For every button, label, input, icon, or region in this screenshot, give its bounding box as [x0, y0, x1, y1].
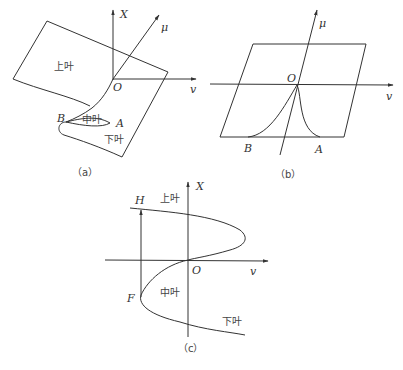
caption-c: （c）	[178, 343, 204, 354]
mu-axis-b	[280, 10, 317, 155]
point-f-label-c: F	[126, 292, 135, 305]
region-upper-label-c: 上叶	[160, 193, 180, 204]
origin-label-a: O	[113, 81, 122, 94]
cusp-catastrophe-figure: 上叶 中叶 下叶 B A O v X μ （a） B A O v μ （b）	[0, 0, 403, 370]
v-axis-label-a: v	[190, 83, 197, 96]
mu-axis-label-a: μ	[161, 21, 168, 34]
cusp-curve-left-b	[248, 85, 297, 137]
v-axis-label-c: v	[250, 265, 257, 278]
origin-label-c: O	[192, 264, 201, 277]
origin-label-b: O	[287, 72, 296, 85]
point-a-label-b: A	[314, 143, 323, 156]
v-axis-label-b: v	[386, 90, 393, 103]
surface-outline-a	[13, 21, 168, 157]
x-axis-label-c: X	[195, 180, 205, 193]
region-upper-label-a: 上叶	[54, 61, 74, 72]
point-b-label-a: B	[56, 112, 65, 125]
panel-a: 上叶 中叶 下叶 B A O v X μ （a）	[13, 8, 197, 178]
region-lower-label-a: 下叶	[104, 134, 124, 145]
figure-canvas: 上叶 中叶 下叶 B A O v X μ （a） B A O v μ （b）	[0, 0, 403, 370]
region-middle-label-c: 中叶	[160, 286, 180, 298]
x-axis-label-a: X	[119, 8, 129, 21]
panel-b: B A O v μ （b）	[210, 10, 393, 180]
cusp-curve-right-b	[297, 85, 320, 137]
point-a-label-a: A	[115, 117, 124, 130]
mu-axis-a	[113, 15, 159, 79]
panel-c: H 上叶 F 中叶 下叶 O v X （c）	[105, 180, 268, 354]
caption-b: （b）	[275, 169, 301, 180]
control-plane-b	[220, 44, 366, 137]
region-middle-label-a: 中叶	[82, 113, 102, 125]
point-b-label-b: B	[243, 142, 252, 155]
region-lower-label-c: 下叶	[222, 316, 242, 327]
point-h-label-c: H	[134, 194, 145, 207]
mu-axis-label-b: μ	[319, 17, 326, 30]
v-axis-b	[210, 84, 393, 85]
caption-a: （a）	[72, 167, 98, 178]
